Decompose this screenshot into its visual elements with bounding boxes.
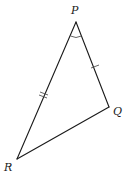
label-r: R — [3, 161, 12, 174]
side-qr — [17, 107, 109, 159]
tick-mark-pq — [91, 65, 99, 68]
side-pq — [76, 22, 109, 107]
side-pr — [17, 22, 76, 159]
triangle-diagram: P Q R — [0, 0, 133, 178]
label-p: P — [70, 4, 79, 17]
label-q: Q — [113, 105, 122, 118]
triangle-pqr — [17, 22, 109, 159]
tick-marks-pr — [39, 92, 48, 98]
angle-arc-p — [71, 36, 82, 38]
